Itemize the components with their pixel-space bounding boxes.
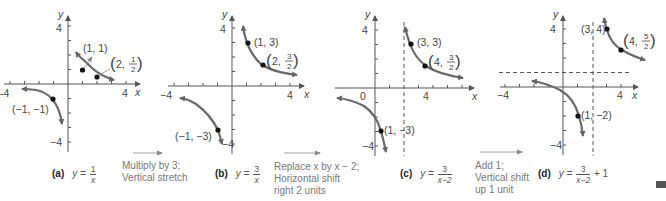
panel-b-graph: y x 4 −4 −4 4 (1, 3) ( 2, 3 2 ) (−1, −3) xyxy=(160,8,310,154)
point-label-1-1: (1, 1) xyxy=(83,42,108,54)
paren-close: ) xyxy=(455,52,461,71)
panel-d-graph: y x 4 −4 −4 4 (3, 4) ( 4, 5 2 ) (1, −2) xyxy=(497,8,656,156)
tick-label-x-4: −4 xyxy=(497,89,509,101)
caption-tag: (d) xyxy=(538,168,551,179)
tick-label-y4: 4 xyxy=(220,23,226,35)
frac-num: 5 xyxy=(644,32,649,41)
frac-num: 3 xyxy=(449,53,454,62)
tick-label-y4: 4 xyxy=(56,22,62,34)
tick-label-x-4: -4 xyxy=(0,87,9,99)
tick-label-x4: 4 xyxy=(122,87,128,99)
point-neg1-neg3 xyxy=(215,127,220,132)
tick-label-x4: 4 xyxy=(617,89,623,101)
caption-tag: (b) xyxy=(215,168,228,179)
frac-num: 1 xyxy=(131,55,136,64)
frac-den: 2 xyxy=(287,62,292,71)
point-2-3half xyxy=(260,62,265,67)
step-line: up 1 unit xyxy=(475,184,529,196)
step-line: Horizontal shift xyxy=(274,173,359,185)
y-axis-label: y xyxy=(57,8,64,20)
point-label-2-3half-prefix: 2, xyxy=(272,55,281,67)
point-label-neg1-neg1: (−1, −1) xyxy=(12,103,49,115)
equation-lhs: y = xyxy=(236,168,250,179)
point-1-neg3 xyxy=(378,128,383,133)
point-2-half xyxy=(94,74,99,79)
fraction-den: x xyxy=(253,175,260,185)
tick-label-y-4: −4 xyxy=(550,139,562,151)
equation-fraction: 3x−2 xyxy=(438,164,452,185)
equation-lhs: y = xyxy=(72,168,86,179)
curve-branch-left xyxy=(532,81,579,116)
equation-suffix: + 1 xyxy=(594,168,608,179)
point-label-1-neg2: (1, −2) xyxy=(581,109,612,121)
point-4-3half xyxy=(422,63,427,68)
step-1-text: Multiply by 3; Vertical stretch xyxy=(122,160,188,184)
fraction-num: 3 xyxy=(438,164,452,175)
caption-tag: (c) xyxy=(400,168,412,179)
point-label-4-5half-prefix: 4, xyxy=(629,35,638,47)
tick-label-y-4: −4 xyxy=(222,138,234,150)
curve-branch-left xyxy=(180,98,218,130)
point-neg1-neg1 xyxy=(50,96,55,101)
step-line: Add 1; xyxy=(475,160,529,172)
step-line: Multiply by 3; xyxy=(122,160,188,172)
panel-c-graph: y x 4 −4 0 4 (3, 3) ( 4, 3 2 ) (1, −3) xyxy=(335,8,478,156)
step-line: right 2 units xyxy=(274,185,359,197)
frac-den: 2 xyxy=(449,63,454,72)
y-axis-label: y xyxy=(221,8,228,20)
tick-label-x-4: −4 xyxy=(160,89,172,101)
x-axis-label: x xyxy=(631,89,638,101)
fraction-den: x−2 xyxy=(438,175,452,185)
equation-fraction: 3x xyxy=(253,164,260,185)
point-label-3-4: (3, 4) xyxy=(581,23,606,35)
x-axis-label: x xyxy=(471,90,478,102)
fraction-num: 1 xyxy=(90,164,97,175)
fraction-num: 3 xyxy=(576,164,590,175)
tick-label-y4: 4 xyxy=(550,23,556,35)
end-of-figure-marker xyxy=(656,181,666,188)
point-label-1-neg3: (1, −3) xyxy=(384,124,415,136)
paren-close: ) xyxy=(293,51,299,70)
tick-label-origin: 0 xyxy=(360,90,366,102)
tick-label-y-4: −4 xyxy=(362,140,374,152)
y-axis-label: y xyxy=(364,8,371,20)
caption-c: (c)y = 3x−2 xyxy=(400,164,453,185)
point-label-1-3: (1, 3) xyxy=(254,36,279,48)
paren-close: ) xyxy=(137,54,143,73)
point-1-3 xyxy=(245,40,250,45)
tick-label-x4: 4 xyxy=(287,89,293,101)
point-label-2-half-prefix: 2, xyxy=(116,58,125,70)
point-label-3-3: (3, 3) xyxy=(417,36,442,48)
step-line: Vertical shift xyxy=(475,172,529,184)
equation-lhs: y = xyxy=(559,168,573,179)
caption-d: (d)y = 3x−2 + 1 xyxy=(538,164,608,185)
caption-b: (b)y = 3x xyxy=(215,164,261,185)
point-3-3 xyxy=(408,41,413,46)
caption-a: (a)y = 1x xyxy=(52,164,97,185)
curve-branch-left xyxy=(22,89,52,99)
fraction-den: x xyxy=(90,175,97,185)
step-2-text: Replace x by x − 2; Horizontal shift rig… xyxy=(274,161,359,197)
tick-label-x4: 4 xyxy=(423,90,429,102)
caption-tag: (a) xyxy=(52,168,64,179)
tick-label-y-4: −4 xyxy=(50,136,62,148)
panel-a-graph: y x 4 −4 -4 4 (1, 1) ( 2, 1 2 ) (−1, −1) xyxy=(0,8,143,152)
frac-den: 2 xyxy=(644,42,649,51)
tick-label-y4: 4 xyxy=(362,24,368,36)
paren-close: ) xyxy=(650,31,656,50)
point-label-4-3half-prefix: 4, xyxy=(434,56,443,68)
point-1-neg2 xyxy=(575,113,580,118)
equation-lhs: y = xyxy=(420,168,434,179)
x-axis-label: x xyxy=(134,86,141,98)
y-axis-label: y xyxy=(552,8,559,20)
step-line: Vertical stretch xyxy=(122,172,188,184)
point-label-neg1-neg3: (−1, −3) xyxy=(175,130,212,142)
curve-branch-left xyxy=(337,98,381,131)
fraction-den: x−2 xyxy=(576,175,590,185)
equation-fraction: 3x−2 xyxy=(576,164,590,185)
frac-num: 3 xyxy=(287,52,292,61)
equation-fraction: 1x xyxy=(90,164,97,185)
step-3-text: Add 1; Vertical shift up 1 unit xyxy=(475,160,529,196)
x-axis-label: x xyxy=(303,88,310,100)
step-line: Replace x by x − 2; xyxy=(274,161,359,173)
